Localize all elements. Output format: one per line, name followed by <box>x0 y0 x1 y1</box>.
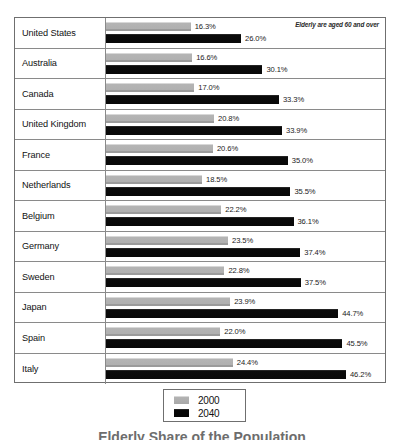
bar-group-2040: 26.0% <box>106 34 266 43</box>
legend-swatch-2040-icon <box>174 409 189 417</box>
bar-group-2040: 35.5% <box>106 187 315 196</box>
row-plot-area: 18.5%35.5% <box>106 171 385 201</box>
bar-group-2040: 45.5% <box>106 339 367 348</box>
category-label: Japan <box>15 302 47 312</box>
chart-row: Germany23.5%37.4% <box>15 232 385 263</box>
row-plot-area: 20.6%35.0% <box>106 140 385 170</box>
bar-value-label: 46.2% <box>350 370 371 379</box>
chart-row: France20.6%35.0% <box>15 140 385 171</box>
row-label-cell: United Kingdom <box>15 110 106 140</box>
bar-group-2000: 16.6% <box>106 53 217 62</box>
row-label-cell: Canada <box>15 79 106 109</box>
bar-2000 <box>106 144 213 153</box>
row-label-cell: Belgium <box>15 201 106 231</box>
bar-2000 <box>106 236 228 245</box>
chart-plot-table: Elderly are aged 60 and over United Stat… <box>14 17 386 383</box>
bar-value-label: 22.2% <box>225 205 246 214</box>
row-plot-area: 23.9%44.7% <box>106 293 385 323</box>
bar-value-label: 16.3% <box>195 22 216 31</box>
row-plot-area: 22.8%37.5% <box>106 262 385 292</box>
bar-2040 <box>106 339 342 348</box>
bar-value-label: 45.5% <box>346 339 367 348</box>
bar-group-2000: 20.6% <box>106 144 238 153</box>
chart-row: Canada17.0%33.3% <box>15 79 385 110</box>
chart-row: Australia16.6%30.1% <box>15 49 385 80</box>
category-label: France <box>15 150 50 160</box>
bar-value-label: 23.5% <box>232 236 253 245</box>
chart-legend: 2000 2040 <box>163 389 246 422</box>
bar-value-label: 20.8% <box>218 114 239 123</box>
row-label-cell: Spain <box>15 323 106 353</box>
category-label: Sweden <box>15 272 55 282</box>
bar-value-label: 30.1% <box>266 65 287 74</box>
category-label: Netherlands <box>15 180 70 190</box>
legend-label-2000: 2000 <box>198 395 219 406</box>
bar-group-2040: 37.4% <box>106 248 325 257</box>
bar-value-label: 22.0% <box>224 327 245 336</box>
category-label: United Kingdom <box>15 119 86 129</box>
bar-2040 <box>106 278 301 287</box>
category-label: Canada <box>15 89 54 99</box>
bar-value-label: 22.8% <box>228 266 249 275</box>
bar-2040 <box>106 65 262 74</box>
bar-value-label: 17.0% <box>198 83 219 92</box>
bar-value-label: 33.3% <box>283 95 304 104</box>
row-plot-area: 24.4%46.2% <box>106 354 385 385</box>
bar-2000 <box>106 358 233 367</box>
bar-2000 <box>106 114 214 123</box>
bar-2040 <box>106 187 290 196</box>
chart-row: Italy24.4%46.2% <box>15 354 385 385</box>
bar-value-label: 37.4% <box>304 248 325 257</box>
bar-group-2000: 24.4% <box>106 358 258 367</box>
category-label: Australia <box>15 58 57 68</box>
chart-title-clipped: Elderly Share of the Population <box>0 430 404 440</box>
bar-2000 <box>106 266 224 275</box>
bar-2040 <box>106 248 300 257</box>
row-label-cell: Japan <box>15 293 106 323</box>
bar-group-2000: 22.2% <box>106 205 246 214</box>
bar-2000 <box>106 83 194 92</box>
bar-value-label: 36.1% <box>298 217 319 226</box>
row-plot-area: 23.5%37.4% <box>106 232 385 262</box>
bar-group-2040: 44.7% <box>106 309 363 318</box>
row-label-cell: United States <box>15 18 106 48</box>
category-label: Spain <box>15 333 45 343</box>
elderly-population-bar-chart: Elderly are aged 60 and over United Stat… <box>0 0 404 440</box>
category-label: Germany <box>15 241 59 251</box>
bar-group-2000: 16.3% <box>106 22 216 31</box>
legend-swatch-2000-icon <box>174 396 189 404</box>
row-plot-area: 22.2%36.1% <box>106 201 385 231</box>
bar-group-2040: 30.1% <box>106 65 287 74</box>
legend-item-2040: 2040 <box>174 407 245 419</box>
chart-row: United Kingdom20.8%33.9% <box>15 110 385 141</box>
bar-group-2040: 33.3% <box>106 95 304 104</box>
bar-2040 <box>106 217 294 226</box>
chart-row: Spain22.0%45.5% <box>15 323 385 354</box>
category-label: United States <box>15 28 76 38</box>
bar-group-2000: 17.0% <box>106 83 219 92</box>
category-label: Belgium <box>15 211 55 221</box>
bar-value-label: 16.6% <box>196 53 217 62</box>
bar-2000 <box>106 175 202 184</box>
row-plot-area: 17.0%33.3% <box>106 79 385 109</box>
bar-group-2000: 22.8% <box>106 266 249 275</box>
bar-value-label: 20.6% <box>217 144 238 153</box>
bar-2040 <box>106 95 279 104</box>
chart-row: Japan23.9%44.7% <box>15 293 385 324</box>
chart-row: Sweden22.8%37.5% <box>15 262 385 293</box>
chart-rows: United States16.3%26.0%Australia16.6%30.… <box>15 18 385 384</box>
bar-2000 <box>106 53 192 62</box>
bar-group-2040: 37.5% <box>106 278 326 287</box>
chart-row: Netherlands18.5%35.5% <box>15 171 385 202</box>
legend-label-2040: 2040 <box>198 408 219 419</box>
category-label: Italy <box>15 364 38 374</box>
bar-group-2040: 35.0% <box>106 156 313 165</box>
bar-2000 <box>106 327 220 336</box>
row-label-cell: Germany <box>15 232 106 262</box>
bar-group-2000: 23.9% <box>106 297 255 306</box>
row-plot-area: 16.3%26.0% <box>106 18 385 48</box>
bar-2040 <box>106 309 338 318</box>
row-label-cell: Italy <box>15 354 106 385</box>
bar-group-2000: 20.8% <box>106 114 239 123</box>
bar-2000 <box>106 297 230 306</box>
